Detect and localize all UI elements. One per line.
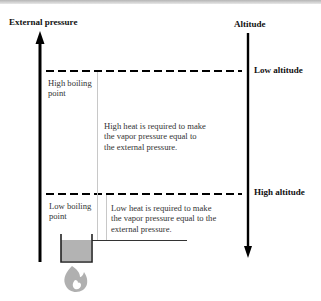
low-heat-note: Low heat is required to make the vapor p… [111, 203, 216, 234]
altitude-arrow [244, 33, 252, 258]
altitude-label: Altitude [234, 19, 266, 29]
high-heat-note: High heat is required to make the vapor … [104, 121, 206, 152]
beaker-icon [61, 234, 92, 262]
external-pressure-arrow [36, 31, 45, 262]
high-boiling-point-label: High boiling point [48, 78, 92, 99]
low-altitude-label: Low altitude [254, 65, 303, 75]
external-pressure-label: External pressure [9, 17, 77, 27]
flame-icon [64, 266, 87, 292]
low-boiling-point-label: Low boiling point [49, 201, 91, 222]
high-altitude-label: High altitude [254, 187, 305, 197]
